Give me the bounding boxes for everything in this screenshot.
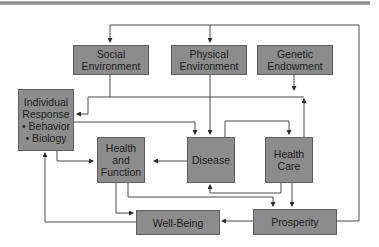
node-label: Physical <box>189 48 228 60</box>
node-label: Care <box>278 160 301 172</box>
node-genetic-endowment: Genetic Endowment <box>257 45 333 75</box>
node-disease: Disease <box>187 137 235 183</box>
node-individual-response: Individual Response • Behavior • Biology <box>18 89 74 151</box>
edge-individual-to-hf <box>57 150 93 161</box>
node-label: Endowment <box>267 60 322 72</box>
node-label: Well-Being <box>153 217 204 229</box>
node-social-environment: Social Environment <box>73 45 149 75</box>
edge-healthcare-to-disease <box>210 182 281 193</box>
node-label: Prosperity <box>271 216 318 228</box>
node-label: Function <box>101 166 141 178</box>
node-health-care: Health Care <box>265 137 313 183</box>
edge-individual-to-disease <box>73 122 195 134</box>
node-label: Genetic <box>277 48 313 60</box>
node-label: Response <box>22 108 69 120</box>
node-label: Health <box>274 148 304 160</box>
edge-to-individual-response <box>77 97 88 114</box>
node-label: Environment <box>82 60 141 72</box>
node-health-and-function: Health and Function <box>97 137 145 183</box>
node-label: Disease <box>192 154 230 166</box>
node-well-being: Well-Being <box>136 210 220 235</box>
edge-hf-to-prosperity <box>128 182 273 206</box>
node-label: Environment <box>180 60 239 72</box>
node-bullet-behavior: • Behavior <box>22 120 70 132</box>
node-label: Individual <box>24 96 68 108</box>
node-label: Social <box>97 48 126 60</box>
edge-disease-to-healthcare <box>225 121 289 137</box>
node-bullet-biology: • Biology <box>25 132 66 144</box>
node-prosperity: Prosperity <box>253 209 337 235</box>
node-label: Health <box>106 142 136 154</box>
node-physical-environment: Physical Environment <box>171 45 247 75</box>
node-label: and <box>112 154 130 166</box>
